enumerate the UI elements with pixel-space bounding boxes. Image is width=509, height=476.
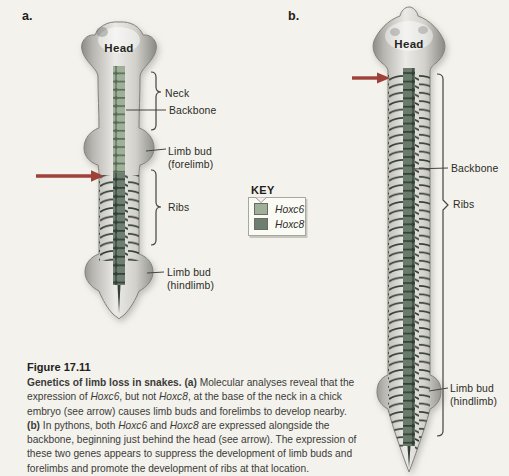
python-head-label: Head [329,38,489,51]
chick-eye-spot [96,27,108,37]
panel-a-letter: a. [22,10,33,23]
panel-b-letter: b. [288,10,299,23]
backbone-label-a: Backbone [169,104,216,117]
key-box-notch [255,197,267,204]
hindlimb-bud-label-a-line1: Limb bud [167,266,214,279]
hindlimb-bud-label-a-line2: (hindlimb) [167,279,214,292]
forelimb-bud-label: Limb bud (forelimb) [168,145,213,171]
ribs-label-b: Ribs [453,198,474,211]
chick-ribs-left [99,175,113,261]
hoxc8-gene-label: Hoxc8 [275,219,304,230]
hindlimb-bud-label-b-line1: Limb bud [450,382,497,395]
python-backbone-segments [403,68,415,446]
key-legend-box: Hoxc6 Hoxc8 [248,197,306,236]
chick-backbone-hoxc6-segments [113,66,125,173]
hindlimb-bud-label-b-line2: (hindlimb) [450,395,497,408]
hoxc8-color-swatch [254,218,268,230]
chick-ribs-right [125,175,139,261]
python-ribs-right [415,74,430,450]
figure-caption-text: Genetics of limb loss in snakes. (a) Mol… [27,376,357,476]
python-ribs-left [388,74,403,450]
backbone-label-b: Backbone [451,162,498,175]
hoxc6-gene-label: Hoxc6 [275,204,304,215]
python-head-spot-left [390,28,400,36]
key-title: KEY [251,184,275,197]
python-head-spot-right [418,26,428,34]
hindlimb-bud-label-b: Limb bud (hindlimb) [450,382,497,408]
chick-backbone-hoxc8-segments [113,173,125,285]
ribs-label-a: Ribs [168,201,189,214]
hoxc6-color-swatch [254,203,268,215]
figure-caption: Figure 17.11 Genetics of limb loss in sn… [27,361,357,476]
figure-17-11-page: a. b. Head Head Neck Backbone Limb bud (… [0,0,509,476]
neck-label: Neck [165,87,189,100]
figure-caption-title: Figure 17.11 [27,361,357,373]
hindlimb-bud-label-a: Limb bud (hindlimb) [167,266,214,292]
forelimb-bud-label-line2: (forelimb) [168,158,213,171]
chick-head-label: Head [44,42,194,55]
key-item-hoxc6: Hoxc6 [254,203,305,215]
key-item-hoxc8: Hoxc8 [254,218,305,230]
forelimb-bud-label-line1: Limb bud [168,145,213,158]
